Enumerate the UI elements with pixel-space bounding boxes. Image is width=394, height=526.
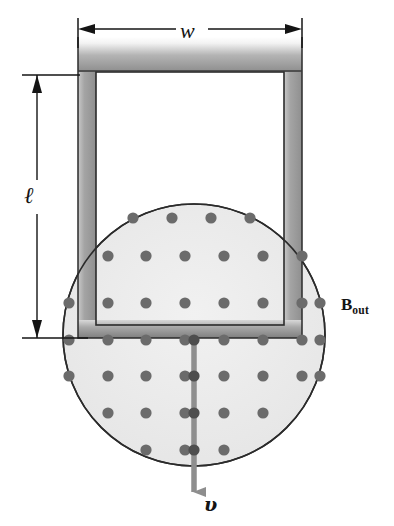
field-dot: [218, 407, 229, 418]
field-dot: [140, 370, 151, 381]
field-dot: [218, 250, 229, 261]
field-dot: [188, 370, 199, 381]
field-dot: [257, 370, 268, 381]
field-dot: [102, 370, 113, 381]
field-dot: [218, 444, 229, 455]
field-dot: [296, 370, 307, 381]
field-dot: [257, 407, 268, 418]
loop-right-bar: [284, 37, 302, 338]
field-dot: [257, 250, 268, 261]
loop-top-bar: [78, 37, 302, 72]
field-dot: [188, 334, 199, 345]
field-dot: [205, 212, 216, 223]
length-dim-arrowhead-bottom: [32, 320, 42, 338]
field-dot: [140, 444, 151, 455]
field-dot: [140, 334, 151, 345]
field-dot: [179, 250, 190, 261]
field-dot: [296, 334, 307, 345]
length-dim-arrowhead-top: [32, 75, 42, 93]
diagram-canvas: [0, 0, 394, 526]
field-dot: [188, 444, 199, 455]
field-dot: [314, 370, 325, 381]
field-dot: [257, 297, 268, 308]
field-dot: [127, 212, 138, 223]
field-dot: [218, 297, 229, 308]
width-dim-arrowhead-left: [78, 24, 95, 34]
field-dot: [188, 407, 199, 418]
width-dim-arrowhead-right: [285, 24, 302, 34]
field-dot: [140, 250, 151, 261]
field-dot: [218, 334, 229, 345]
physics-diagram-figure: w ℓ Bout υ: [0, 0, 394, 526]
field-dot: [218, 370, 229, 381]
field-dot: [102, 250, 113, 261]
field-dot: [314, 334, 325, 345]
field-dot: [63, 297, 74, 308]
field-dot: [102, 407, 113, 418]
field-dot: [179, 297, 190, 308]
field-dot: [257, 334, 268, 345]
field-dot: [63, 370, 74, 381]
field-dot: [63, 334, 74, 345]
field-dot: [296, 297, 307, 308]
field-dot: [102, 334, 113, 345]
field-dot: [296, 250, 307, 261]
field-dot: [140, 297, 151, 308]
field-dot: [166, 212, 177, 223]
field-dot: [244, 212, 255, 223]
field-dot: [102, 297, 113, 308]
loop-bottom-bar: [78, 320, 302, 338]
field-dot: [314, 297, 325, 308]
field-dot: [140, 407, 151, 418]
loop-left-bar: [78, 37, 96, 338]
